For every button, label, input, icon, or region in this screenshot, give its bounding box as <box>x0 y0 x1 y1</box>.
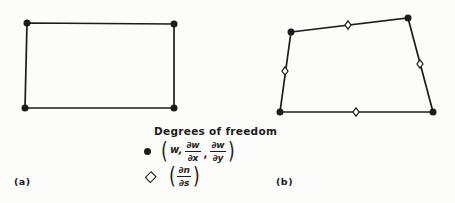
legend-entry-midside-dof: ( ∂n ∂s ) <box>147 164 201 189</box>
element-b-vertex-node <box>277 109 284 116</box>
fraction-denominator: ∂s <box>179 177 189 188</box>
comma-separator: , <box>204 148 208 159</box>
open-paren: ( <box>161 142 168 162</box>
fraction-dw-dx: ∂w ∂x <box>185 140 200 163</box>
fraction-dn-ds: ∂n ∂s <box>177 165 190 188</box>
element-b-outline <box>280 18 433 112</box>
fraction-numerator: ∂w <box>210 140 225 152</box>
element-a-vertex-node <box>171 105 178 112</box>
element-b-vertex-node <box>405 15 412 22</box>
legend-title: Degrees of freedom <box>154 125 277 137</box>
element-b-midside-node <box>353 108 359 116</box>
filled-circle-icon <box>144 148 151 155</box>
element-b-midside-node <box>417 60 423 68</box>
subfigure-label-b: (b) <box>276 176 293 187</box>
element-a-vertex-node <box>171 21 178 28</box>
fraction-dw-dy: ∂w ∂y <box>210 140 225 163</box>
fraction-numerator: ∂w <box>185 140 200 152</box>
fraction-denominator: ∂y <box>213 152 224 163</box>
open-paren: ( <box>169 167 176 187</box>
finite-element-diagram <box>0 0 455 125</box>
close-paren: ) <box>193 167 200 187</box>
dof-term-w: w, <box>170 144 182 155</box>
legend-entry-vertex-dof: ( w, ∂w ∂x , ∂w ∂y ) <box>144 140 236 163</box>
element-b-vertex-node <box>288 29 295 36</box>
figure-canvas: Degrees of freedom ( w, ∂w ∂x , ∂w ∂y ) … <box>0 0 455 203</box>
fraction-denominator: ∂x <box>188 152 199 163</box>
open-diamond-icon <box>145 171 156 182</box>
element-a-vertex-node <box>22 105 29 112</box>
element-b-vertex-node <box>430 109 437 116</box>
element-b-midside-node <box>345 21 351 29</box>
element-b-midside-node <box>282 67 288 75</box>
element-a-vertex-node <box>24 20 31 27</box>
fraction-numerator: ∂n <box>177 165 190 177</box>
subfigure-label-a: (a) <box>14 176 31 187</box>
close-paren: ) <box>228 142 235 162</box>
element-a-outline <box>25 23 174 108</box>
